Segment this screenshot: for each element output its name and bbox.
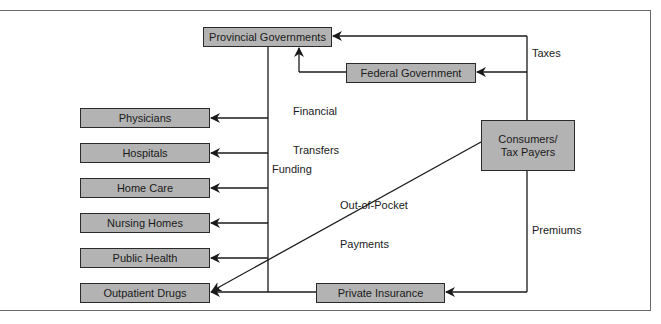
node-label-line1: Consumers/ (498, 133, 557, 146)
edge-label-premiums: Premiums (532, 224, 582, 237)
edge-label-line1: Out-of-Pocket (340, 199, 408, 212)
edge-label-line1: Financial (293, 105, 339, 118)
node-nursing-homes: Nursing Homes (80, 213, 210, 233)
node-label-line2: Tax Payers (501, 146, 555, 159)
node-home-care: Home Care (80, 178, 210, 198)
edge-label-line2: Transfers (293, 144, 339, 157)
edge-label-line2: Payments (340, 238, 408, 251)
node-hospitals: Hospitals (80, 143, 210, 163)
node-physicians: Physicians (80, 108, 210, 128)
node-label: Physicians (119, 112, 172, 125)
node-label: Public Health (113, 252, 178, 265)
node-public-health: Public Health (80, 248, 210, 268)
node-label: Private Insurance (338, 287, 424, 300)
edge-label-out-of-pocket: Out-of-Pocket Payments (340, 173, 408, 264)
node-outpatient-drugs: Outpatient Drugs (80, 283, 210, 303)
node-label: Home Care (117, 182, 173, 195)
node-label: Provincial Governments (209, 31, 326, 44)
node-federal-government: Federal Government (346, 63, 476, 83)
node-consumers-tax-payers: Consumers/ Tax Payers (481, 120, 575, 171)
edge-label-taxes: Taxes (532, 47, 561, 60)
edge-label-funding: Funding (272, 163, 312, 176)
node-label: Federal Government (361, 67, 462, 80)
node-label: Nursing Homes (107, 217, 183, 230)
edge-label-financial-transfers: Financial Transfers (293, 79, 339, 170)
node-label: Hospitals (122, 147, 167, 160)
node-private-insurance: Private Insurance (316, 283, 445, 303)
node-label: Outpatient Drugs (103, 287, 186, 300)
node-provincial-governments: Provincial Governments (203, 27, 332, 47)
